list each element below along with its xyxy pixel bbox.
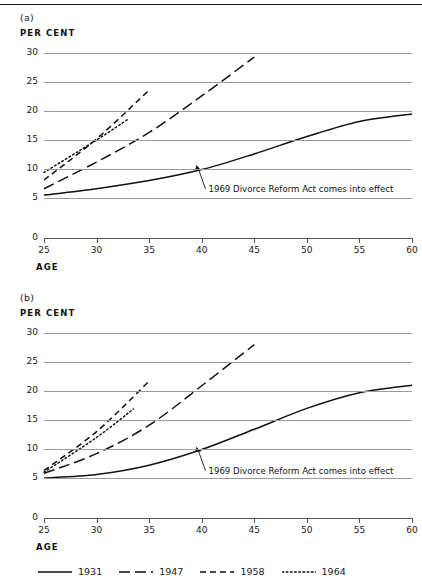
y-axis-tick-label: 20 — [12, 105, 38, 115]
legend-item-1964: 1964 — [282, 566, 346, 577]
gridline — [44, 362, 412, 363]
x-axis-tick-label: 40 — [187, 525, 217, 535]
legend-swatch-long-dash — [119, 567, 153, 577]
y-axis-tick-label: 5 — [12, 472, 38, 482]
x-axis-tick-mark — [44, 518, 45, 523]
series-line-1931 — [44, 385, 412, 478]
y-axis-tick-label: 25 — [12, 356, 38, 366]
panel-b: (b) PER CENT 051015202530253035404550556… — [0, 292, 422, 560]
x-axis-tick-label: 50 — [292, 245, 322, 255]
y-axis-tick-label: 10 — [12, 443, 38, 453]
x-axis-tick-label: 25 — [29, 245, 59, 255]
series-line-1964 — [44, 409, 133, 472]
legend-item-1947: 1947 — [119, 566, 183, 577]
series-line-1931 — [44, 114, 412, 195]
x-axis-tick-label: 40 — [187, 245, 217, 255]
gridline — [44, 391, 412, 392]
x-axis-tick-mark — [202, 518, 203, 523]
gridline — [44, 111, 412, 112]
gridline — [44, 420, 412, 421]
x-axis-tick-label: 45 — [239, 245, 269, 255]
x-axis-tick-mark — [149, 518, 150, 523]
x-axis-baseline — [44, 518, 412, 519]
x-axis-tick-label: 30 — [82, 525, 112, 535]
gridline — [44, 333, 412, 334]
x-axis-tick-mark — [412, 518, 413, 523]
x-axis-tick-label: 60 — [397, 525, 422, 535]
panel-a-plot-area: 05101520253025303540455055601969 Divorce… — [0, 12, 422, 280]
gridline — [44, 478, 412, 479]
x-axis-tick-mark — [412, 238, 413, 243]
gridline — [44, 169, 412, 170]
x-axis-tick-mark — [254, 518, 255, 523]
annotation-leader-line — [198, 168, 206, 189]
x-axis-tick-label: 45 — [239, 525, 269, 535]
y-axis-tick-label: 30 — [12, 47, 38, 57]
legend-item-1931: 1931 — [38, 566, 102, 577]
y-axis-tick-label: 10 — [12, 163, 38, 173]
gridline — [44, 449, 412, 450]
x-axis-tick-label: 50 — [292, 525, 322, 535]
x-axis-tick-mark — [254, 238, 255, 243]
gridline — [44, 140, 412, 141]
x-axis-tick-mark — [202, 238, 203, 243]
x-axis-tick-mark — [307, 238, 308, 243]
x-axis-tick-mark — [359, 238, 360, 243]
x-axis-tick-mark — [359, 518, 360, 523]
y-axis-tick-label: 25 — [12, 76, 38, 86]
x-axis-tick-mark — [44, 238, 45, 243]
series-line-1958 — [44, 90, 149, 180]
x-axis-tick-mark — [97, 518, 98, 523]
y-axis-tick-label: 30 — [12, 327, 38, 337]
x-axis-tick-mark — [307, 518, 308, 523]
gridline — [44, 82, 412, 83]
x-axis-tick-label: 60 — [397, 245, 422, 255]
series-line-1947 — [44, 345, 254, 474]
panel-a: (a) PER CENT 051015202530253035404550556… — [0, 12, 422, 280]
y-axis-tick-label: 15 — [12, 414, 38, 424]
x-axis-tick-mark — [149, 238, 150, 243]
series-line-1964 — [44, 119, 128, 172]
x-axis-tick-label: 35 — [134, 525, 164, 535]
top-horizontal-rule — [0, 4, 422, 5]
legend-items: 1931194719581964 — [38, 566, 346, 577]
panel-b-plot-area: 05101520253025303540455055601969 Divorce… — [0, 292, 422, 560]
x-axis-tick-mark — [97, 238, 98, 243]
top-cropped-text-band — [0, 0, 422, 3]
y-axis-tick-label: 20 — [12, 385, 38, 395]
divorce-reform-act-annotation: 1969 Divorce Reform Act comes into effec… — [208, 466, 393, 476]
legend-label: 1947 — [159, 566, 183, 577]
y-axis-tick-label: 5 — [12, 192, 38, 202]
legend-swatch-solid — [38, 567, 72, 577]
y-axis-tick-label: 0 — [12, 232, 38, 242]
legend-swatch-dotted — [282, 567, 316, 577]
x-axis-tick-label: 55 — [344, 525, 374, 535]
x-axis-baseline — [44, 238, 412, 239]
x-axis-tick-label: 30 — [82, 245, 112, 255]
x-axis-tick-label: 35 — [134, 245, 164, 255]
legend-swatch-short-dash — [200, 567, 234, 577]
legend-label: 1958 — [240, 566, 264, 577]
annotation-leader-line — [198, 450, 206, 471]
legend-label: 1964 — [322, 566, 346, 577]
legend-item-1958: 1958 — [200, 566, 264, 577]
divorce-reform-act-annotation: 1969 Divorce Reform Act comes into effec… — [208, 184, 393, 194]
legend-label: 1931 — [78, 566, 102, 577]
gridline — [44, 198, 412, 199]
x-axis-tick-label: 55 — [344, 245, 374, 255]
y-axis-tick-label: 15 — [12, 134, 38, 144]
chart-legend: 1931194719581964 — [0, 560, 422, 587]
panel-b-x-axis-title: AGE — [36, 542, 59, 552]
x-axis-tick-label: 25 — [29, 525, 59, 535]
series-line-1958 — [44, 381, 149, 470]
gridline — [44, 53, 412, 54]
y-axis-tick-label: 0 — [12, 512, 38, 522]
panel-a-x-axis-title: AGE — [36, 262, 59, 272]
